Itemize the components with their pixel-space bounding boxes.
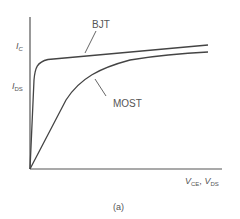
most-leader-line xyxy=(95,79,106,96)
chart-canvas: BJT MOST IC IDS VCE, VDS (a) xyxy=(0,0,240,219)
x-axis-label: VCE, VDS xyxy=(185,176,219,187)
most-label: MOST xyxy=(113,98,142,109)
y-label-ids: IDS xyxy=(12,81,23,92)
bjt-leader-line xyxy=(85,31,96,53)
y-label-ic: IC xyxy=(16,41,24,52)
figure-caption: (a) xyxy=(113,202,124,212)
bjt-label: BJT xyxy=(92,19,110,30)
bjt-vs-most-iv-characteristics: BJT MOST IC IDS VCE, VDS (a) xyxy=(0,0,240,219)
most-curve xyxy=(30,52,208,169)
